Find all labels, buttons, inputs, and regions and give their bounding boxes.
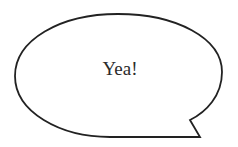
bubble-text: Yea!	[0, 58, 238, 80]
